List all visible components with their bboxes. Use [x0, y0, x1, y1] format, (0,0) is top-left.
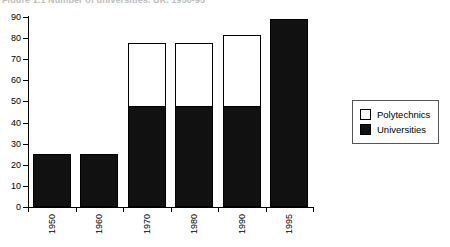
- bar-1995[interactable]: [270, 19, 308, 207]
- x-axis-tick: [171, 207, 172, 212]
- bar-segment-polytechnics[interactable]: [175, 43, 213, 106]
- bar-segment-universities[interactable]: [270, 19, 308, 207]
- x-axis-tick: [218, 207, 219, 212]
- x-axis-label-1970: 1970: [143, 214, 152, 234]
- y-axis-tick: [23, 144, 29, 145]
- y-axis-tick-label: 30: [1, 140, 21, 149]
- bar-segment-polytechnics[interactable]: [223, 35, 261, 107]
- bar-segment-polytechnics[interactable]: [128, 43, 166, 106]
- y-axis-tick: [23, 165, 29, 166]
- x-axis-tick: [28, 207, 29, 212]
- y-axis-tick: [23, 123, 29, 124]
- x-axis-label-1995: 1995: [285, 214, 294, 234]
- bar-1980[interactable]: [175, 42, 213, 207]
- x-axis-label-1980: 1980: [190, 214, 199, 234]
- x-axis-tick: [313, 207, 314, 212]
- legend-label: Universities: [377, 124, 426, 135]
- y-axis-tick-label: 50: [1, 97, 21, 106]
- y-axis-line: [28, 16, 29, 208]
- legend-swatch-icon: [360, 109, 371, 120]
- y-axis-tick-label: 40: [1, 119, 21, 128]
- y-axis-tick-label: 90: [1, 13, 21, 22]
- y-axis-tick: [23, 59, 29, 60]
- plot-area: 9080706050403020100 19501960197019801990…: [0, 0, 340, 247]
- x-axis-label-1950: 1950: [48, 214, 57, 234]
- y-axis-tick-label: 80: [1, 34, 21, 43]
- bar-segment-universities[interactable]: [175, 106, 213, 207]
- x-axis-label-1960: 1960: [95, 214, 104, 234]
- x-axis-tick: [266, 207, 267, 212]
- legend-label: Polytechnics: [377, 109, 430, 120]
- bar-1960[interactable]: [80, 154, 118, 207]
- bar-1970[interactable]: [128, 42, 166, 207]
- legend-swatch-icon: [360, 124, 371, 135]
- bar-segment-universities[interactable]: [33, 154, 71, 207]
- y-axis-tick-label: 60: [1, 76, 21, 85]
- y-axis-tick-label: 20: [1, 161, 21, 170]
- bar-1990[interactable]: [223, 34, 261, 207]
- bar-segment-universities[interactable]: [128, 106, 166, 207]
- y-axis-tick: [23, 101, 29, 102]
- y-axis-tick-label: 0: [1, 203, 21, 212]
- x-axis-tick: [123, 207, 124, 212]
- y-axis-tick-label: 10: [1, 182, 21, 191]
- y-axis-tick: [23, 80, 29, 81]
- bar-1950[interactable]: [33, 154, 71, 207]
- legend-item-universities[interactable]: Universities: [360, 122, 430, 137]
- x-axis-tick: [76, 207, 77, 212]
- x-axis-label-1990: 1990: [238, 214, 247, 234]
- y-axis-tick: [23, 17, 29, 18]
- legend-item-polytechnics[interactable]: Polytechnics: [360, 107, 430, 122]
- y-axis-tick: [23, 186, 29, 187]
- bar-segment-universities[interactable]: [80, 154, 118, 207]
- bar-segment-universities[interactable]: [223, 106, 261, 207]
- y-axis-tick-label: 70: [1, 55, 21, 64]
- y-axis-tick: [23, 38, 29, 39]
- chart-legend: PolytechnicsUniversities: [352, 100, 439, 144]
